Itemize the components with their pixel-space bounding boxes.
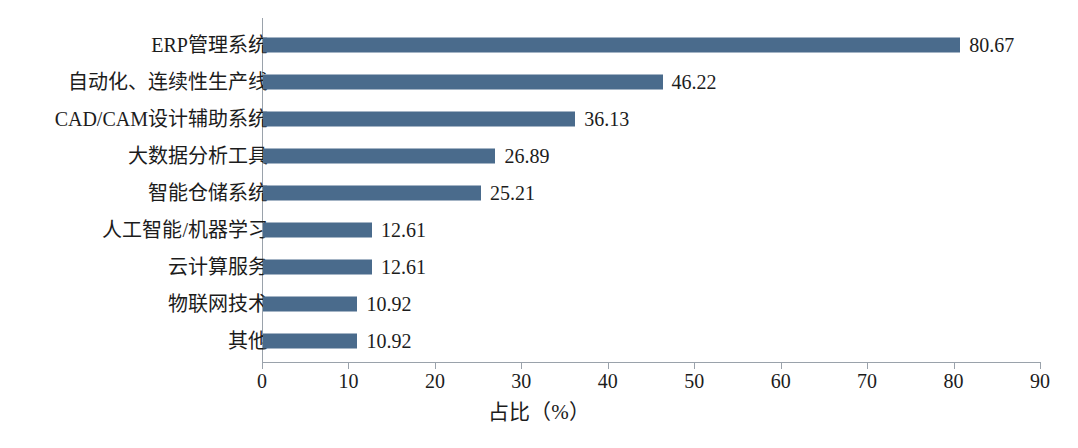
bar-value-label: 12.61 (381, 219, 426, 241)
x-axis-tick-label: 90 (1030, 370, 1050, 392)
x-axis-tick-label: 40 (598, 370, 618, 392)
x-axis-tick (867, 362, 868, 369)
x-axis-tick (435, 362, 436, 369)
category-label: 其他 (228, 330, 268, 352)
category-label: 自动化、连续性生产线 (68, 71, 268, 93)
category-label: 人工智能/机器学习 (102, 219, 268, 241)
bar-row: 物联网技术10.92 (0, 285, 1078, 322)
bar (263, 185, 481, 200)
x-axis-line (262, 362, 1040, 363)
x-axis-tick (262, 362, 263, 369)
category-label: ERP管理系统 (151, 34, 268, 56)
x-axis-tick (781, 362, 782, 369)
x-axis-tick (694, 362, 695, 369)
category-label: CAD/CAM设计辅助系统 (55, 108, 268, 130)
bar-value-label: 12.61 (381, 256, 426, 278)
bar (263, 37, 960, 52)
bar-value-label: 80.67 (969, 34, 1014, 56)
bar (263, 222, 372, 237)
x-axis-tick-label: 80 (944, 370, 964, 392)
bar-value-label: 36.13 (584, 108, 629, 130)
bar (263, 333, 357, 348)
x-axis-tick (608, 362, 609, 369)
x-axis-tick-label: 30 (511, 370, 531, 392)
category-label: 物联网技术 (168, 293, 268, 315)
bar-row: 人工智能/机器学习12.61 (0, 211, 1078, 248)
category-label: 云计算服务 (168, 256, 268, 278)
x-axis-tick-label: 70 (857, 370, 877, 392)
bar (263, 259, 372, 274)
bar-value-label: 10.92 (366, 293, 411, 315)
x-axis-tick-label: 0 (257, 370, 267, 392)
bar-value-label: 46.22 (672, 71, 717, 93)
bar-value-label: 10.92 (366, 330, 411, 352)
bar (263, 296, 357, 311)
bar-row: 其他10.92 (0, 322, 1078, 359)
bar-row: CAD/CAM设计辅助系统36.13 (0, 100, 1078, 137)
x-axis-tick-label: 10 (338, 370, 358, 392)
bar-row: 大数据分析工具26.89 (0, 137, 1078, 174)
bar-chart: 0102030405060708090 ERP管理系统80.67自动化、连续性生… (0, 0, 1078, 448)
x-axis-tick-label: 60 (771, 370, 791, 392)
bar-row: 智能仓储系统25.21 (0, 174, 1078, 211)
category-label: 智能仓储系统 (148, 182, 268, 204)
x-axis-title: 占比（%） (0, 400, 1078, 424)
bar-value-label: 26.89 (504, 145, 549, 167)
bar-value-label: 25.21 (490, 182, 535, 204)
x-axis-tick (521, 362, 522, 369)
x-axis-tick (954, 362, 955, 369)
bar-row: 自动化、连续性生产线46.22 (0, 63, 1078, 100)
bar (263, 148, 495, 163)
x-axis-tick (348, 362, 349, 369)
x-axis-tick-label: 20 (425, 370, 445, 392)
bar-row: ERP管理系统80.67 (0, 26, 1078, 63)
x-axis-tick-label: 50 (684, 370, 704, 392)
bar-row: 云计算服务12.61 (0, 248, 1078, 285)
bar (263, 111, 575, 126)
x-axis-tick (1040, 362, 1041, 369)
bar (263, 74, 663, 89)
category-label: 大数据分析工具 (128, 145, 268, 167)
